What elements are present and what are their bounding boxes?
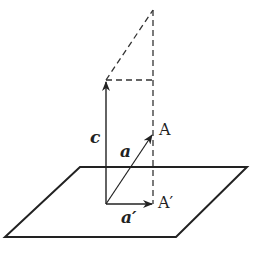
dashed-diagonal-top (106, 10, 153, 80)
label-a: a (120, 143, 131, 160)
vector-projection-diagram: c a a′ A A′ (0, 0, 255, 261)
label-c: c (90, 129, 100, 146)
label-point-A-prime: A′ (158, 195, 173, 211)
label-point-A: A (159, 122, 171, 138)
label-a-prime: a′ (121, 209, 137, 226)
